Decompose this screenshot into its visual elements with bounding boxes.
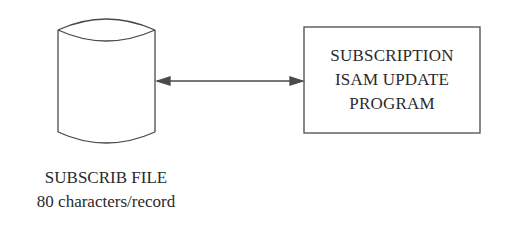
arrow-head-right-icon [290,77,303,85]
process-label: SUBSCRIPTION ISAM UPDATE PROGRAM [304,27,480,133]
process-label-line-1: SUBSCRIPTION [330,44,453,68]
bidirectional-arrow [157,77,303,85]
storage-name-label: SUBSCRIB FILE [0,168,212,188]
storage-cylinder [58,19,155,143]
cylinder-bottom-edge [58,132,155,143]
cylinder-top-inner [58,30,155,41]
cylinder-top-edge [58,19,155,30]
storage-description-label: 80 characters/record [0,192,212,212]
arrow-head-left-icon [157,77,170,85]
process-label-line-3: PROGRAM [349,92,434,116]
process-label-line-2: ISAM UPDATE [335,68,449,92]
